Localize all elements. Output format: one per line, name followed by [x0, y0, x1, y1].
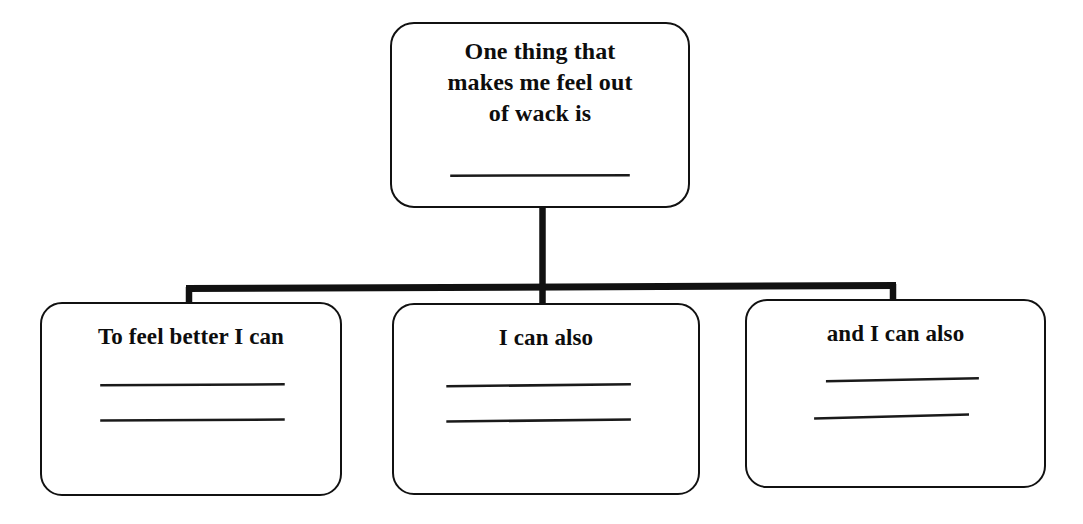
worksheet-canvas: One thing that makes me feel out of wack…: [0, 0, 1083, 524]
node-leaf-and-i-can-also: and I can also: [745, 299, 1046, 488]
node-leaf-2-label: and I can also: [747, 319, 1044, 348]
node-leaf-to-feel-better: To feel better I can: [40, 302, 342, 496]
blank-line: [100, 384, 285, 385]
blank-line: [446, 384, 631, 386]
node-leaf-i-can-also: I can also: [392, 303, 700, 495]
node-root-line-3: of wack is: [392, 98, 688, 129]
node-leaf-0-label: To feel better I can: [42, 322, 340, 351]
blank-line: [100, 420, 285, 421]
blank-line: [814, 415, 969, 419]
node-root-prompt: One thing that makes me feel out of wack…: [390, 22, 690, 208]
blank-line: [826, 378, 979, 381]
blank-line: [446, 420, 631, 422]
node-root-line-1: One thing that: [392, 36, 688, 67]
node-leaf-1-label: I can also: [394, 323, 698, 352]
node-root-line-2: makes me feel out: [392, 67, 688, 98]
